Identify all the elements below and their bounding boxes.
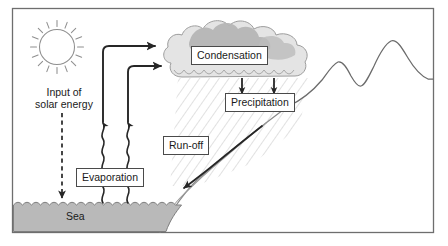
label-sea: Sea xyxy=(66,210,85,222)
label-condensation: Condensation xyxy=(191,46,268,65)
label-evaporation: Evaporation xyxy=(76,168,144,187)
water-cycle-diagram: Condensation Precipitation Run-off Evapo… xyxy=(0,0,448,246)
label-runoff: Run-off xyxy=(163,136,209,155)
label-input-of-solar-energy: Input of solar energy xyxy=(17,86,111,111)
sea-body xyxy=(14,202,182,231)
label-precipitation: Precipitation xyxy=(225,93,295,112)
